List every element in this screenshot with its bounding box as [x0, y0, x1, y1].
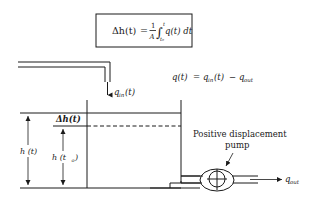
h-t0-close: ) — [74, 153, 78, 162]
h-t-label: h (t) — [20, 147, 37, 156]
pump-label: Positive displacement pump — [193, 129, 287, 166]
fraction-numerator: 1 — [151, 22, 155, 30]
inlet-pipe: q in (t) — [18, 62, 135, 98]
delta-h-lhs: Δh(t) — [112, 25, 136, 36]
outlet-pump: q out — [150, 169, 300, 191]
equation-box: Δh(t) = 1 A ∫ t t₀ q(t) dt — [96, 14, 193, 47]
fraction-denominator: A — [149, 33, 155, 41]
q-out-subscript: out — [244, 77, 254, 83]
dimensions: Δh(t) h (t) h (t o ) — [18, 114, 81, 185]
equals-sign: = — [140, 25, 148, 36]
minus-sign: − — [229, 72, 236, 82]
q-in-label-sub: in — [119, 92, 125, 98]
q-in-label-arg: (t) — [125, 87, 135, 97]
pump-label-line2: pump — [225, 140, 250, 150]
integral-lower-limit: t₀ — [160, 36, 164, 42]
pump-label-line1: Positive displacement — [193, 129, 287, 139]
integrand: q(t) dt — [165, 26, 193, 36]
flow-equals: = — [193, 72, 200, 82]
h-t0-label: h (t — [52, 153, 67, 162]
q-in-arg: (t) — [214, 72, 224, 82]
tank — [20, 100, 181, 188]
q-in-subscript: in — [208, 77, 214, 83]
tank-diagram: Δh(t) = 1 A ∫ t t₀ q(t) dt q(t) = q in (… — [0, 0, 320, 204]
flow-equation: q(t) = q in (t) − q out — [172, 72, 254, 83]
pump-pointer-arrow — [226, 153, 233, 166]
q-t-lhs: q(t) — [172, 72, 188, 82]
q-out-label-sub: out — [290, 179, 300, 185]
delta-h-label: Δh(t) — [55, 114, 81, 124]
